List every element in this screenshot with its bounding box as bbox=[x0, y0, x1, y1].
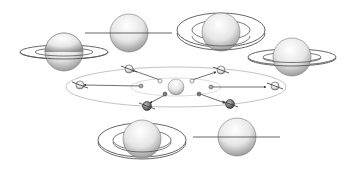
saturn-view-top-center bbox=[85, 14, 172, 52]
saturn-view-bottom-right bbox=[193, 118, 280, 156]
saturn-orbit-pos-upper-right bbox=[213, 66, 229, 74]
saturn-ring-phases-diagram bbox=[0, 0, 352, 171]
saturn-view-right bbox=[248, 38, 336, 76]
saturn-orbit-pos-right bbox=[267, 82, 283, 90]
orbit-diagram bbox=[66, 65, 286, 111]
saturn-view-bottom-left bbox=[98, 120, 186, 159]
saturn-view-top-right bbox=[177, 13, 265, 51]
saturn-view-top-left bbox=[20, 33, 108, 71]
sun-icon bbox=[168, 79, 184, 95]
